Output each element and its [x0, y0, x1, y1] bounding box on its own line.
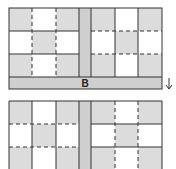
label-b: B [81, 78, 88, 89]
bottom-left-panel [9, 101, 79, 169]
center-strip [79, 101, 91, 169]
down-arrow-icon [166, 78, 172, 89]
top-left-panel [9, 8, 79, 77]
top-right-panel [91, 8, 162, 77]
bottom-right-panel [91, 101, 162, 169]
center-strip [79, 8, 91, 77]
bottom-block [9, 101, 162, 169]
top-block: B [9, 8, 162, 89]
fold-diagram: B [0, 0, 176, 169]
